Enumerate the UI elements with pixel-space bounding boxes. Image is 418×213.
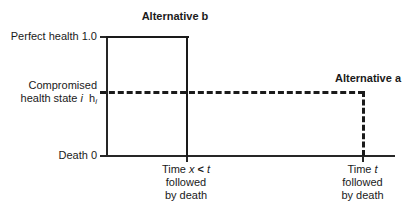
time-t-by-death-text: by death [341,189,383,201]
time-x-operator: < [194,163,207,175]
alternative-b-death-drop-line [186,36,188,157]
health-state-tradeoff-figure: Alternative b Alternative a Perfect heal… [0,0,418,213]
compromised-label-line-1: Compromised [29,79,97,91]
y-axis-label-death: Death 0 [0,149,97,162]
time-t-followed-text: followed [342,176,382,188]
time-x-limit: t [207,163,210,175]
x-axis-label-time-x: Time x < t followed by death [126,163,246,202]
compromised-label-line-2-prefix: health state [21,92,81,104]
time-t-prefix: Time [347,163,374,175]
y-tick-death [100,155,107,157]
time-t-variable: t [375,163,378,175]
time-x-by-death-text: by death [165,189,207,201]
x-axis-line [106,155,395,157]
alternative-b-title: Alternative b [117,10,233,23]
alternative-a-plateau-line [100,91,364,94]
y-axis-label-perfect-health: Perfect health 1.0 [0,30,97,43]
alternative-a-death-drop-line [362,91,365,156]
time-x-followed-text: followed [166,176,206,188]
x-axis-label-time-t: Time t followed by death [311,163,414,202]
compromised-state-index: i [81,92,83,104]
alternative-b-plateau-line [106,36,189,38]
y-axis-label-compromised-health-state: Compromised health state i hi [0,79,97,108]
alternative-a-title: Alternative a [322,72,414,85]
compromised-utility-subscript: i [95,97,97,106]
time-x-prefix: Time [162,163,189,175]
y-axis-line [106,36,108,157]
